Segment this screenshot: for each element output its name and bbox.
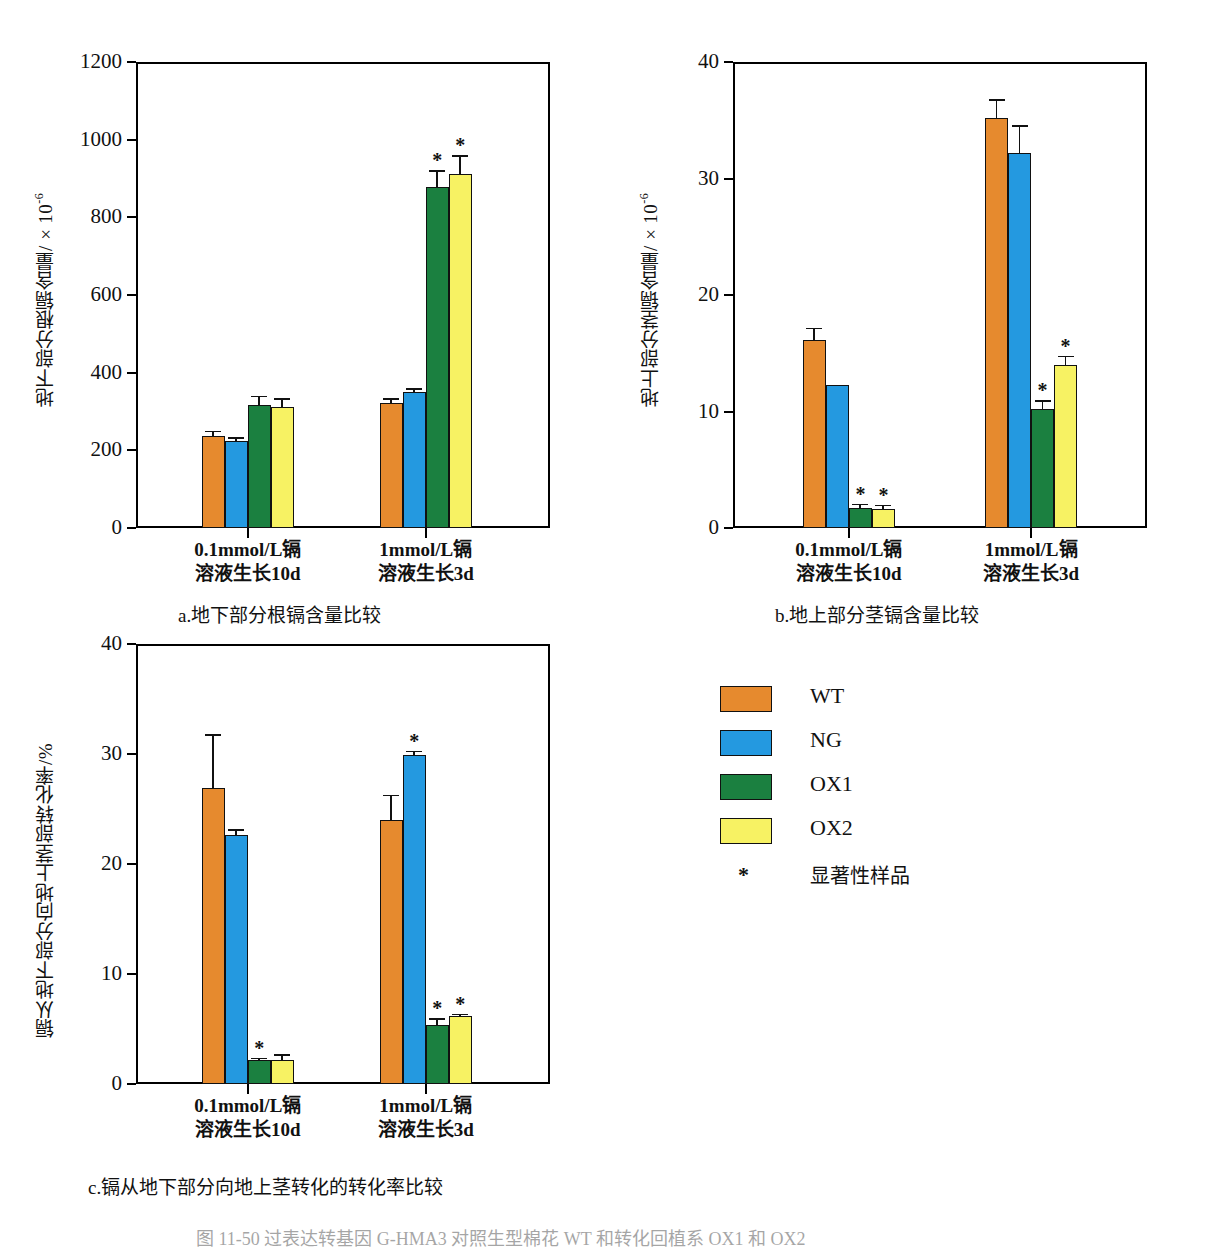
error-bar [459, 155, 461, 174]
chart-b-plot-area [733, 62, 1147, 528]
error-bar-cap [228, 437, 244, 439]
error-bar-cap [383, 398, 399, 400]
y-tick-mark [724, 178, 733, 180]
legend-item-significance: * 显著性样品 [720, 856, 1020, 900]
x-category-line1: 1mmol/L镉 [316, 538, 536, 562]
legend-item: OX1 [720, 768, 1020, 812]
legend-label-ox1: OX1 [810, 771, 853, 797]
y-tick-label: 30 [52, 741, 122, 766]
error-bar-cap [251, 396, 267, 398]
x-category-label: 1mmol/L镉溶液生长3d [316, 538, 536, 586]
bar-b-ox2-g1 [872, 509, 895, 528]
y-tick-label: 0 [52, 1071, 122, 1096]
y-tick-label: 600 [52, 282, 122, 307]
y-tick-mark [127, 294, 136, 296]
bar-a-ox1-g1 [248, 405, 271, 528]
legend-swatch-ox1 [720, 774, 772, 800]
bar-c-ox1-g2 [426, 1025, 449, 1084]
error-bar-cap [406, 388, 422, 390]
y-tick-label: 200 [52, 437, 122, 462]
asterisk-icon: * [738, 862, 749, 888]
y-tick-mark [127, 449, 136, 451]
x-tick-mark [247, 528, 249, 538]
error-bar-cap [383, 795, 399, 797]
x-category-label: 1mmol/L镉溶液生长3d [316, 1094, 536, 1142]
y-tick-label: 0 [649, 515, 719, 540]
legend-item: WT [720, 680, 1020, 724]
legend-label-wt: WT [810, 683, 844, 709]
significance-asterisk: * [1061, 336, 1071, 356]
y-tick-mark [724, 61, 733, 63]
bar-b-ox1-g1 [849, 508, 872, 528]
x-tick-mark [848, 528, 850, 538]
error-bar [996, 99, 998, 118]
y-tick-mark [127, 216, 136, 218]
y-tick-label: 1000 [52, 127, 122, 152]
bar-b-ox1-g2 [1031, 409, 1054, 528]
error-bar-cap [228, 829, 244, 831]
error-bar [390, 795, 392, 820]
bar-b-wt-g2 [985, 118, 1008, 528]
y-tick-mark [724, 411, 733, 413]
bar-c-ng-g1 [225, 835, 248, 1084]
bar-c-ng-g2 [403, 755, 426, 1084]
chart-c-caption: c.镉从地下部分向地上茎转化的转化率比较 [88, 1172, 443, 1199]
y-tick-label: 1200 [52, 49, 122, 74]
y-tick-label: 40 [649, 49, 719, 74]
bar-a-ng-g1 [225, 441, 248, 528]
y-tick-label: 10 [649, 399, 719, 424]
significance-asterisk: * [409, 731, 419, 751]
significance-asterisk: * [455, 135, 465, 155]
significance-asterisk: * [432, 150, 442, 170]
bar-b-wt-g1 [803, 340, 826, 528]
significance-asterisk: * [855, 484, 865, 504]
significance-asterisk: * [878, 485, 888, 505]
x-category-line2: 溶液生长3d [316, 562, 536, 586]
legend-swatch-ox2 [720, 818, 772, 844]
chart-panel-a: 地下部分根镉含量/×10-6 020040060080010001200 ** … [0, 0, 600, 620]
legend-swatch-ng [720, 730, 772, 756]
bar-b-ng-g2 [1008, 153, 1031, 528]
y-tick-label: 20 [52, 851, 122, 876]
y-tick-mark [127, 372, 136, 374]
figure-legend: WT NG OX1 OX2 * 显著性样品 [720, 680, 1020, 900]
legend-label-significance: 显著性样品 [810, 860, 910, 889]
significance-asterisk: * [455, 994, 465, 1014]
x-tick-mark [1030, 528, 1032, 538]
error-bar-cap [989, 99, 1005, 101]
error-bar [212, 734, 214, 788]
bar-c-ox1-g1 [248, 1060, 271, 1084]
x-tick-mark [425, 1084, 427, 1094]
chart-a-plot-area [136, 62, 550, 528]
bar-c-wt-g2 [380, 820, 403, 1084]
y-tick-label: 20 [649, 282, 719, 307]
y-tick-mark [724, 527, 733, 529]
x-category-label: 1mmol/L镉溶液生长3d [921, 538, 1141, 586]
y-tick-mark [724, 294, 733, 296]
bar-c-ox2-g1 [271, 1060, 294, 1084]
y-tick-mark [127, 527, 136, 529]
y-tick-label: 800 [52, 204, 122, 229]
y-tick-mark [127, 139, 136, 141]
y-tick-label: 400 [52, 360, 122, 385]
figure-bottom-caption: 图 11-50 过表达转基因 G-HMA3 对照生型棉花 WT 和转化回植系 O… [196, 1224, 805, 1250]
y-tick-mark [127, 643, 136, 645]
x-category-line1: 1mmol/L镉 [921, 538, 1141, 562]
error-bar-cap [205, 431, 221, 433]
bar-a-ox2-g1 [271, 407, 294, 528]
bar-c-ox2-g2 [449, 1016, 472, 1084]
y-tick-mark [127, 61, 136, 63]
bar-a-wt-g2 [380, 403, 403, 528]
error-bar-cap [806, 328, 822, 330]
bar-a-wt-g1 [202, 436, 225, 528]
y-tick-label: 30 [649, 166, 719, 191]
y-tick-mark [127, 753, 136, 755]
error-bar [1019, 125, 1021, 153]
y-tick-mark [127, 863, 136, 865]
error-bar [436, 170, 438, 186]
significance-asterisk: * [1038, 380, 1048, 400]
y-tick-mark [127, 1083, 136, 1085]
legend-item: OX2 [720, 812, 1020, 856]
chart-b-caption: b.地上部分茎镉含量比较 [775, 600, 979, 627]
significance-asterisk: * [254, 1038, 264, 1058]
